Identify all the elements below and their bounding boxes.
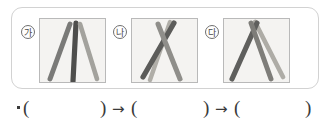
figure-item-ga: 가 <box>21 18 109 84</box>
stick-center <box>73 23 76 81</box>
arrow-right-icon-1: → <box>112 94 125 124</box>
answer-blank-3-open: ( <box>234 93 240 123</box>
circled-da-marker: 다 <box>205 25 219 39</box>
stick-drawing-da <box>224 19 289 82</box>
stick-drawing-na <box>132 19 197 82</box>
circled-na-marker: 나 <box>113 25 127 39</box>
figure-panel-group: 가 나 다 <box>11 7 319 89</box>
stick-right <box>80 24 97 79</box>
figure-item-da: 다 <box>205 18 295 84</box>
figure-item-na: 나 <box>113 18 201 84</box>
answer-line: ( ) → ( ) → ( ) <box>0 93 331 127</box>
stick-photo-ga <box>39 18 106 83</box>
answer-blank-2-close[interactable]: ) <box>203 93 209 123</box>
stick-photo-na <box>131 18 198 83</box>
answer-blank-2-open: ( <box>131 93 137 123</box>
stick-left <box>50 24 70 79</box>
stick-drawing-ga <box>40 19 105 82</box>
bullet-marker <box>17 106 20 109</box>
stick-photo-da <box>223 18 290 83</box>
answer-blank-1-open: ( <box>23 93 29 123</box>
answer-blank-3-close[interactable]: ) <box>305 93 311 123</box>
answer-blank-1-close[interactable]: ) <box>100 93 106 123</box>
circled-ga-marker: 가 <box>21 25 35 39</box>
arrow-right-icon-2: → <box>215 94 228 124</box>
